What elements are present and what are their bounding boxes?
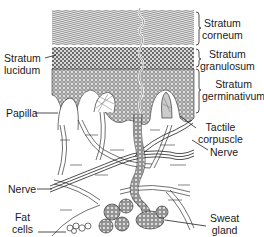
label-line: Stratum bbox=[4, 52, 41, 64]
bracket-corneum bbox=[196, 12, 201, 45]
sweat-gland-coils bbox=[99, 199, 168, 233]
label-stratum-corneum: Stratum corneum bbox=[202, 17, 243, 41]
label-nerve-right: Nerve bbox=[210, 146, 238, 158]
label-line: Tactile bbox=[198, 121, 243, 133]
label-line: Fat bbox=[12, 211, 33, 223]
label-line: Stratum bbox=[202, 78, 264, 90]
label-line: germinativum bbox=[202, 90, 264, 102]
label-line: gland bbox=[210, 224, 239, 236]
label-tactile-corpuscle: Tactile corpuscle bbox=[198, 121, 243, 145]
label-line: Stratum bbox=[202, 17, 243, 29]
label-stratum-lucidum: Stratum lucidum bbox=[4, 52, 41, 76]
label-line: granulosum bbox=[200, 60, 255, 72]
leader-sweat bbox=[165, 220, 206, 226]
label-stratum-germinativum: Stratum germinativum bbox=[202, 78, 264, 102]
label-line: corpuscle bbox=[198, 133, 243, 145]
label-papilla: Papilla bbox=[6, 107, 38, 119]
label-fat-cells: Fat cells bbox=[12, 211, 33, 235]
stratum-corneum-layer bbox=[52, 10, 194, 45]
label-line: Sweat bbox=[210, 212, 239, 224]
label-nerve-left: Nerve bbox=[8, 183, 36, 195]
nerve-fiber bbox=[50, 120, 194, 192]
label-line: corneum bbox=[202, 29, 243, 41]
label-stratum-granulosum: Stratum granulosum bbox=[200, 48, 255, 72]
bracket-germinativum bbox=[196, 69, 201, 113]
label-line: Stratum bbox=[200, 48, 255, 60]
tactile-corpuscle bbox=[162, 92, 173, 118]
label-line: lucidum bbox=[4, 64, 41, 76]
label-sweat-gland: Sweat gland bbox=[210, 212, 239, 236]
label-line: cells bbox=[12, 223, 33, 235]
fat-cells-cluster bbox=[67, 223, 91, 234]
stratum-granulosum-layer bbox=[52, 47, 194, 69]
